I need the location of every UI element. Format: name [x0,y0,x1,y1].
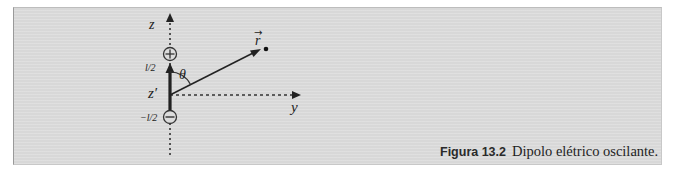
vector-accent-icon: → [254,27,262,38]
y-axis-arrowhead-icon [292,91,301,99]
vector-arrowhead-icon [250,49,261,57]
figure-caption-text: Dipolo elétrico oscilante. [512,143,658,159]
positive-charge-icon [164,48,177,61]
y-axis [170,91,301,99]
z-prime-label: z′ [147,85,158,101]
y-axis-label: y [289,99,298,115]
upper-tick-label: l/2 [145,62,156,73]
lower-tick-label: −l/2 [140,112,157,123]
z-axis-label: z [148,17,155,32]
theta-label: θ [179,67,186,82]
figure-number: Figura 13.2 [440,145,506,159]
z-axis-arrowhead-icon [166,13,174,22]
figure-caption: Figura 13.2Dipolo elétrico oscilante. [440,143,658,160]
negative-charge-icon [164,111,177,124]
field-point-dot [264,47,269,52]
